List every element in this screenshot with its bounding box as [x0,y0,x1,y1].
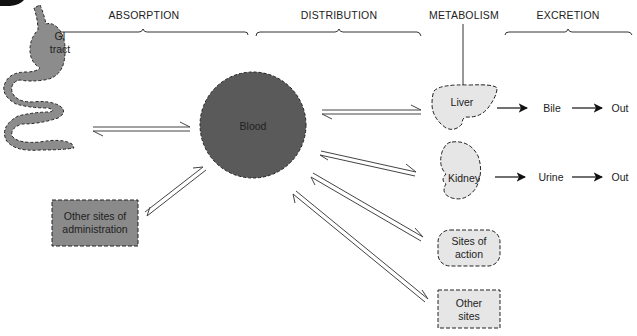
blood-label: Blood [228,120,278,133]
out-urine-label: Out [606,171,634,184]
gi-tract-label: GI tract [45,30,75,56]
arrow-gi-blood [93,122,190,136]
kidney-shape [441,142,481,199]
bracket-excretion [505,29,632,35]
out-bile-label: Out [606,102,634,115]
liver-label: Liver [444,96,480,109]
arrow-blood-action [311,173,423,241]
other-line2: sites [438,310,500,323]
gi-line1: GI [45,30,75,43]
admin-line2: administration [52,223,138,236]
other-admin-label: Other sites of administration [52,210,138,236]
other-sites-label: Other sites [438,297,500,323]
kidney-label: Kidney [442,172,486,185]
header-metabolism: METABOLISM [425,9,503,22]
arrow-blood-other [293,191,428,302]
arrow-blood-liver [322,105,421,119]
gi-line2: tract [45,43,75,56]
corner-tab [0,0,24,6]
header-excretion: EXCRETION [530,9,606,22]
bile-label: Bile [535,102,569,115]
urine-label: Urine [532,171,570,184]
action-line1: Sites of [438,235,500,248]
header-distribution: DISTRIBUTION [294,9,384,22]
action-line2: action [438,248,500,261]
sites-of-action-label: Sites of action [438,235,500,261]
arrow-admin-blood [145,167,206,216]
admin-line1: Other sites of [52,210,138,223]
pharmacokinetics-diagram [0,0,637,336]
arrow-blood-kidney [320,151,416,176]
bracket-distribution [256,29,421,36]
other-line1: Other [438,297,500,310]
header-absorption: ABSORPTION [100,9,188,22]
gi-tract-shape [4,5,74,150]
